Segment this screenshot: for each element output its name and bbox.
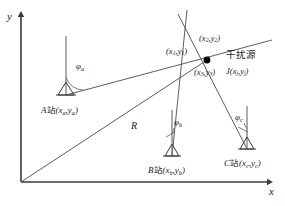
station-b-cn: 站 [154,165,163,175]
jamming-source-coord: J(xj,yj) [226,67,248,76]
point-label-1: (x1,y1) [166,47,187,56]
diagram-svg [0,0,285,206]
station-b-angle-label: φb [174,118,182,127]
station-c-cn: 站 [230,158,239,168]
jamming-x-sub: j [236,70,238,76]
station-a-cn: 站 [47,105,56,115]
point-2-close: ) [217,33,220,43]
station-a-angle-arc [66,77,83,90]
station-a-x-sub: a [63,110,66,116]
station-c-x-sub: c [246,163,249,169]
station-a-close: ) [75,105,78,115]
jamming-y-sub: j [244,70,246,76]
station-a-y-sub: a [72,110,75,116]
point-1-close: ) [184,46,187,56]
figure-canvas: y x R (x1,y1) (x2,y2) (x3,y3) 干扰源 J(xj,y… [0,0,285,206]
point-2-y-sub: 2 [214,37,217,43]
station-a-angle-label: φa [76,62,84,71]
station-b-x: x [166,165,170,175]
station-c-y-sub: c [255,163,258,169]
x-axis-label: x [269,186,274,197]
station-a-x: x [59,105,63,115]
station-a-phi-sub: a [81,66,84,72]
station-c-close: ) [258,158,261,168]
point-2-x-sub: 2 [206,37,209,43]
point-1-y-sub: 1 [181,50,184,56]
point-1-x-sub: 1 [173,50,176,56]
point-3-y-sub: 3 [209,71,212,77]
point-label-3: (x3,y3) [194,68,215,77]
station-c-phi-sub: c [240,117,243,123]
station-b-x-sub: b [170,170,173,176]
station-b-close: ) [182,165,185,175]
station-b-phi-sub: b [179,122,182,128]
y-axis-label: y [7,11,12,22]
range-label: R [131,121,137,131]
point-3-close: ) [212,67,215,77]
station-b-y-sub: b [179,170,182,176]
point-label-2: (x2,y2) [199,34,220,43]
station-a-label: A站(xa,ya) [41,106,78,115]
point-3-x-sub: 3 [201,71,204,77]
station-c-label: C站(xc,yc) [224,159,261,168]
bearing-line-b [172,10,187,156]
station-b-label: B站(xb,yb) [148,166,185,175]
station-c-angle-label: φc [235,113,243,122]
jamming-source-title: 干扰源 [226,50,256,60]
jamming-source-marker [204,57,211,64]
